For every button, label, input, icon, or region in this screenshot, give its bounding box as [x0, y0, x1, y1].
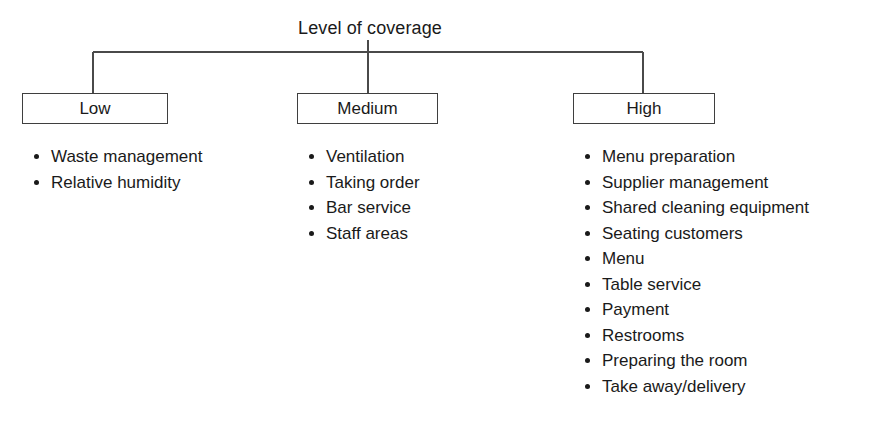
item-list-low: Waste managementRelative humidity — [30, 144, 203, 195]
category-label-low: Low — [79, 99, 110, 119]
list-item: Staff areas — [305, 221, 420, 247]
category-label-high: High — [627, 99, 662, 119]
list-item: Take away/delivery — [581, 374, 809, 400]
list-item: Ventilation — [305, 144, 420, 170]
list-item: Seating customers — [581, 221, 809, 247]
list-item: Menu — [581, 246, 809, 272]
list-item: Supplier management — [581, 170, 809, 196]
category-box-high[interactable]: High — [573, 93, 715, 124]
category-label-medium: Medium — [337, 99, 397, 119]
list-item: Bar service — [305, 195, 420, 221]
list-item: Payment — [581, 297, 809, 323]
list-item: Waste management — [30, 144, 203, 170]
list-item: Relative humidity — [30, 170, 203, 196]
list-item: Shared cleaning equipment — [581, 195, 809, 221]
item-list-medium: VentilationTaking orderBar serviceStaff … — [305, 144, 420, 246]
list-item: Taking order — [305, 170, 420, 196]
item-list-high: Menu preparationSupplier managementShare… — [581, 144, 809, 399]
list-item: Table service — [581, 272, 809, 298]
list-item: Restrooms — [581, 323, 809, 349]
list-item: Menu preparation — [581, 144, 809, 170]
diagram-title: Level of coverage — [0, 17, 740, 39]
category-box-medium[interactable]: Medium — [297, 93, 438, 124]
tree-diagram: Level of coverage Low Medium High Waste … — [0, 0, 880, 425]
category-box-low[interactable]: Low — [22, 93, 168, 124]
list-item: Preparing the room — [581, 348, 809, 374]
